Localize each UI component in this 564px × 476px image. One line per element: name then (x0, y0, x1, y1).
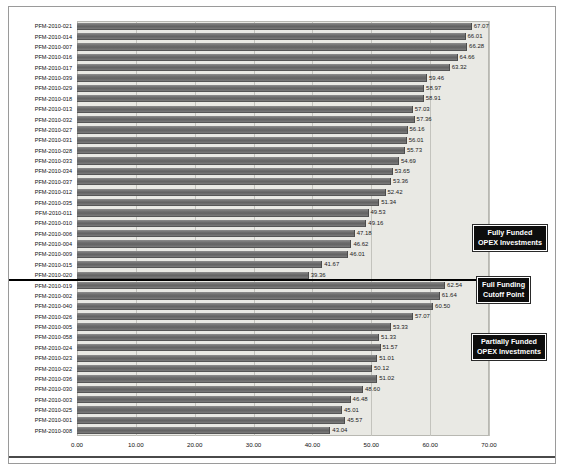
x-axis-tick-label: 30.00 (246, 441, 261, 448)
bar-row[interactable]: 63.32 (77, 63, 489, 73)
bar-row[interactable]: 51.02 (77, 374, 489, 384)
bar-row[interactable]: 51.34 (77, 197, 489, 207)
bar-row[interactable]: 66.01 (77, 31, 489, 41)
bar[interactable] (77, 106, 413, 113)
bar[interactable] (77, 427, 330, 434)
bar-row[interactable]: 67.07 (77, 21, 489, 31)
bar-value-label: 51.57 (383, 343, 398, 352)
bar[interactable] (77, 126, 408, 133)
bar-row[interactable]: 59.46 (77, 73, 489, 83)
bar-row[interactable]: 46.01 (77, 249, 489, 259)
bar-row[interactable]: 60.50 (77, 301, 489, 311)
category-label: PFM-2010-039 (35, 74, 72, 82)
bar[interactable] (77, 355, 377, 362)
bar-row[interactable]: 43.04 (77, 426, 489, 436)
bar-value-label: 66.01 (468, 32, 483, 41)
bar[interactable] (77, 251, 348, 258)
bar-row[interactable]: 58.91 (77, 94, 489, 104)
bar-row[interactable]: 41.67 (77, 260, 489, 270)
bar-row[interactable]: 53.33 (77, 322, 489, 332)
bar-value-label: 46.62 (353, 240, 368, 249)
bar-row[interactable]: 49.16 (77, 218, 489, 228)
bar[interactable] (77, 23, 472, 30)
bar-row[interactable]: 51.33 (77, 332, 489, 342)
bar[interactable] (77, 54, 458, 61)
bar-row[interactable]: 61.64 (77, 291, 489, 301)
bar[interactable] (77, 33, 466, 40)
bar-row[interactable]: 52.42 (77, 187, 489, 197)
bar[interactable] (77, 74, 427, 81)
bar-row[interactable]: 46.48 (77, 395, 489, 405)
bar[interactable] (77, 375, 377, 382)
bar-row[interactable]: 45.01 (77, 405, 489, 415)
bar[interactable] (77, 272, 309, 279)
category-label: PFM-2010-008 (35, 427, 72, 435)
annotation-cutoff-line-1: Full Funding (482, 280, 525, 290)
bar-row[interactable]: 51.01 (77, 353, 489, 363)
bar[interactable] (77, 323, 391, 330)
bar-value-label: 39.36 (311, 271, 326, 280)
bar-row[interactable]: 48.60 (77, 384, 489, 394)
bar[interactable] (77, 396, 351, 403)
bar[interactable] (77, 178, 391, 185)
bar-row[interactable]: 46.62 (77, 239, 489, 249)
bar-row[interactable]: 57.36 (77, 114, 489, 124)
bar[interactable] (77, 282, 445, 289)
bar[interactable] (77, 313, 413, 320)
bar[interactable] (77, 406, 342, 413)
bar-value-label: 54.69 (401, 157, 416, 166)
bar-row[interactable]: 57.03 (77, 104, 489, 114)
bar[interactable] (77, 240, 351, 247)
category-label: PFM-2010-006 (35, 230, 72, 238)
bar[interactable] (77, 230, 355, 237)
bar-value-label: 49.16 (368, 219, 383, 228)
bar[interactable] (77, 116, 415, 123)
bar-row[interactable]: 56.01 (77, 135, 489, 145)
bar[interactable] (77, 137, 407, 144)
category-label: PFM-2010-028 (35, 147, 72, 155)
bar[interactable] (77, 334, 379, 341)
bar[interactable] (77, 344, 381, 351)
bar[interactable] (77, 199, 379, 206)
bar-row[interactable]: 53.65 (77, 166, 489, 176)
category-label: PFM-2010-005 (35, 323, 72, 331)
bar[interactable] (77, 292, 440, 299)
bar[interactable] (77, 261, 322, 268)
category-label: PFM-2010-037 (35, 178, 72, 186)
bar[interactable] (77, 365, 372, 372)
bar-row[interactable]: 45.57 (77, 415, 489, 425)
bar-row[interactable]: 56.16 (77, 125, 489, 135)
bar[interactable] (77, 157, 399, 164)
bar[interactable] (77, 85, 424, 92)
bar-row[interactable]: 49.53 (77, 208, 489, 218)
bar[interactable] (77, 43, 467, 50)
bar-value-label: 51.34 (381, 198, 396, 207)
bar[interactable] (77, 147, 405, 154)
bar-row[interactable]: 50.12 (77, 363, 489, 373)
bar-row[interactable]: 51.57 (77, 343, 489, 353)
category-label: PFM-2010-014 (35, 33, 72, 41)
chart-frame: PFM-2010-021PFM-2010-014PFM-2010-007PFM-… (8, 6, 556, 464)
category-label: PFM-2010-021 (35, 22, 72, 30)
bar[interactable] (77, 189, 386, 196)
bar-row[interactable]: 66.28 (77, 42, 489, 52)
bar-value-label: 66.28 (469, 42, 484, 51)
bar-value-label: 41.67 (324, 260, 339, 269)
bar[interactable] (77, 95, 424, 102)
bar-row[interactable]: 62.54 (77, 280, 489, 290)
bar[interactable] (77, 303, 433, 310)
bar-row[interactable]: 53.36 (77, 177, 489, 187)
bar[interactable] (77, 209, 369, 216)
bar-row[interactable]: 54.69 (77, 156, 489, 166)
bar[interactable] (77, 386, 363, 393)
bar-row[interactable]: 57.07 (77, 312, 489, 322)
category-label: PFM-2010-027 (35, 126, 72, 134)
bar-row[interactable]: 58.97 (77, 83, 489, 93)
bar-row[interactable]: 55.73 (77, 146, 489, 156)
bar[interactable] (77, 417, 345, 424)
bar[interactable] (77, 64, 450, 71)
bar-row[interactable]: 64.66 (77, 52, 489, 62)
bar[interactable] (77, 220, 366, 227)
bar[interactable] (77, 168, 393, 175)
bar-row[interactable]: 47.18 (77, 229, 489, 239)
